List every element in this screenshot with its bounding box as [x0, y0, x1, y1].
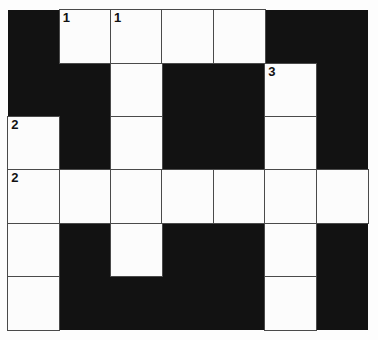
crossword-cell[interactable]: 2	[7, 169, 60, 224]
crossword-block	[8, 10, 59, 63]
crossword-block	[214, 117, 265, 170]
crossword-block	[214, 63, 265, 116]
crossword-cell[interactable]	[110, 116, 163, 171]
clue-number: 2	[11, 117, 18, 132]
crossword-cell[interactable]	[213, 9, 266, 64]
crossword-cell[interactable]	[110, 223, 163, 278]
clue-number: 2	[11, 170, 18, 185]
clue-number: 3	[268, 64, 275, 79]
crossword-block	[8, 63, 59, 116]
clue-number: 1	[114, 10, 121, 25]
crossword-block	[162, 277, 213, 330]
crossword-cell[interactable]: 2	[7, 116, 60, 171]
crossword-cell[interactable]	[264, 169, 317, 224]
crossword-cell[interactable]	[7, 223, 60, 278]
crossword-block	[162, 117, 213, 170]
crossword-block	[317, 63, 368, 116]
crossword-cell[interactable]	[264, 276, 317, 331]
crossword-cell[interactable]	[161, 169, 214, 224]
crossword-cell[interactable]	[316, 169, 369, 224]
crossword-block	[214, 223, 265, 276]
clue-number: 1	[63, 10, 70, 25]
crossword-block	[59, 277, 110, 330]
crossword-block	[59, 117, 110, 170]
crossword-cell[interactable]: 3	[264, 63, 317, 118]
crossword-cell[interactable]	[161, 9, 214, 64]
crossword-block	[317, 223, 368, 276]
crossword-cell[interactable]	[110, 63, 163, 118]
crossword-block	[317, 10, 368, 63]
crossword-block	[317, 277, 368, 330]
crossword-cell[interactable]	[110, 169, 163, 224]
crossword-block	[59, 63, 110, 116]
crossword-block	[265, 10, 316, 63]
crossword-block	[59, 223, 110, 276]
crossword-cell[interactable]	[264, 116, 317, 171]
crossword-cell[interactable]	[264, 223, 317, 278]
crossword-block	[162, 63, 213, 116]
crossword-cell[interactable]: 1	[59, 9, 112, 64]
crossword-cell[interactable]	[7, 276, 60, 331]
crossword-block	[111, 277, 162, 330]
crossword-block	[214, 277, 265, 330]
crossword-cell[interactable]: 1	[110, 9, 163, 64]
crossword-block	[162, 223, 213, 276]
crossword-cell[interactable]	[213, 169, 266, 224]
crossword-block	[317, 117, 368, 170]
crossword-puzzle: 11322	[0, 0, 378, 340]
crossword-grid: 11322	[8, 10, 368, 330]
crossword-cell[interactable]	[59, 169, 112, 224]
